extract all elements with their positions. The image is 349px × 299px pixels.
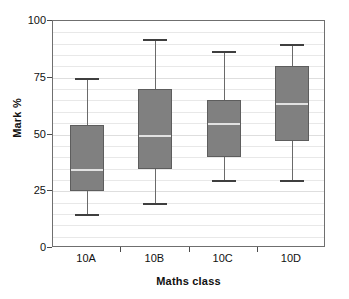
upper-whisker-cap bbox=[280, 44, 304, 46]
x-axis-tick-mark bbox=[120, 247, 121, 252]
y-axis-tick-mark bbox=[47, 190, 52, 191]
box-plot-figure: Mark % 0255075100 10A10B10C10D Maths cla… bbox=[0, 0, 349, 299]
x-axis-tick-mark bbox=[189, 247, 190, 252]
y-axis-tick-mark bbox=[47, 134, 52, 135]
lower-whisker-cap bbox=[280, 180, 304, 182]
plot-area bbox=[52, 20, 325, 247]
x-axis-tick-label: 10B bbox=[124, 252, 184, 264]
median-line bbox=[276, 103, 308, 105]
y-axis-tick-mark bbox=[47, 247, 52, 248]
y-axis-tick-label: 25 bbox=[6, 184, 46, 196]
box-plot bbox=[53, 21, 326, 246]
x-axis-title: Maths class bbox=[52, 275, 325, 287]
x-axis-tick-mark bbox=[257, 247, 258, 252]
x-axis-tick-label: 10A bbox=[56, 252, 116, 264]
y-axis-title: Mark % bbox=[11, 73, 23, 163]
lower-whisker-line bbox=[292, 141, 293, 180]
y-axis-tick-label: 50 bbox=[6, 128, 46, 140]
upper-whisker-line bbox=[292, 44, 293, 67]
y-axis-tick-mark bbox=[47, 77, 52, 78]
x-axis-tick-label: 10C bbox=[193, 252, 253, 264]
y-axis-tick-label: 0 bbox=[6, 241, 46, 253]
y-axis-tick-label: 75 bbox=[6, 71, 46, 83]
y-axis-tick-mark bbox=[47, 20, 52, 21]
x-axis-tick-label: 10D bbox=[261, 252, 321, 264]
y-axis-tick-label: 100 bbox=[6, 14, 46, 26]
